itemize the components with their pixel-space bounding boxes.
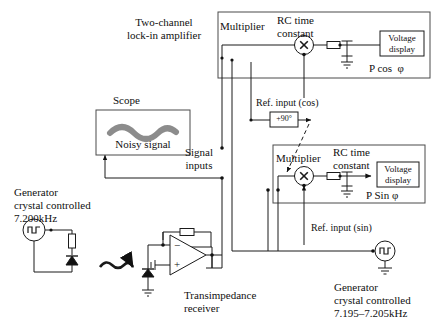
right-generator-label: Generator crystal controlled 7.195–7.205… bbox=[334, 281, 411, 320]
noisy-signal-label: Noisy signal bbox=[96, 138, 190, 151]
led-symbol bbox=[66, 256, 78, 265]
ref-input-cos-label: Ref. input (cos) bbox=[256, 97, 319, 109]
right-generator-circle bbox=[375, 241, 395, 261]
left-resistor bbox=[69, 234, 76, 248]
cos-rc-label: RC time constant bbox=[277, 14, 314, 40]
title-two-channel-lockin: Two-channel lock-in amplifier bbox=[112, 16, 216, 42]
light-path-arrow bbox=[100, 262, 133, 268]
cos-multiplier-label: Multiplier bbox=[220, 20, 265, 33]
sin-resistor bbox=[327, 173, 340, 180]
circuit-diagram-figure: Two-channel lock-in amplifier Scope Nois… bbox=[0, 0, 432, 326]
opamp-inverting-sign: − bbox=[174, 239, 180, 252]
cos-voltage-display-label: Voltage display bbox=[380, 33, 424, 54]
opamp-noninverting-sign: + bbox=[174, 258, 180, 271]
ref-input-sin-label: Ref. input (sin) bbox=[311, 222, 372, 234]
phase-shift-label: +90° bbox=[270, 114, 298, 123]
scope-label: Scope bbox=[113, 94, 140, 107]
ref-bus-long bbox=[232, 60, 268, 251]
cos-signal-wire bbox=[222, 45, 295, 58]
transimpedance-label: Transimpedance receiver bbox=[184, 289, 256, 315]
sin-signal-wire bbox=[278, 176, 295, 190]
signal-inputs-label: Signal inputs bbox=[178, 146, 220, 172]
left-generator-label: Generator crystal controlled 7.200kHz bbox=[14, 186, 91, 225]
sin-multiplier-label: Multiplier bbox=[276, 152, 321, 165]
sin-output-label: P Sin φ bbox=[366, 189, 398, 202]
sin-rc-label: RC time constant bbox=[333, 146, 370, 172]
cos-output-label: P cos φ bbox=[369, 62, 404, 75]
cos-resistor bbox=[327, 42, 340, 49]
photodiode-symbol bbox=[142, 269, 154, 277]
feedback-resistor bbox=[180, 229, 194, 236]
sin-voltage-display-label: Voltage display bbox=[377, 164, 419, 185]
